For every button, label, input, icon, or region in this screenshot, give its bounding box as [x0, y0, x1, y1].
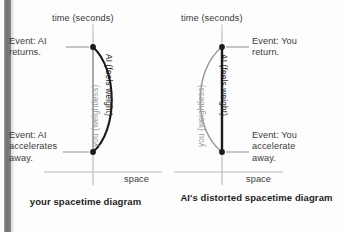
figure-canvas: time (seconds) space Event: AI returns. …	[0, 0, 342, 232]
right-worldline-label-ai: AI (feels weight)	[219, 54, 228, 116]
right-event-dot-top	[219, 44, 225, 50]
left-worldline-label-ai: AI (feels weight)	[104, 54, 113, 116]
left-event-label-bottom: Event: AI accelerates away.	[9, 130, 71, 164]
left-time-axis-label: time (seconds)	[52, 13, 114, 23]
left-worldline-label-you: you (weightless)	[91, 85, 100, 147]
left-space-axis-label: space	[124, 174, 149, 184]
left-panel-caption: your spacetime diagram	[0, 196, 171, 208]
right-time-axis-label: time (seconds)	[181, 13, 243, 23]
left-event-dot-top	[90, 44, 96, 50]
right-event-dot-bottom	[219, 149, 225, 155]
left-event-label-top: Event: AI returns.	[9, 36, 69, 59]
panel-your-spacetime-diagram: time (seconds) space Event: AI returns. …	[0, 0, 171, 232]
right-event-label-top: Event: You return.	[252, 36, 322, 59]
right-space-axis-label: space	[246, 174, 271, 184]
left-event-dot-bottom	[90, 149, 96, 155]
right-worldline-label-you: you (weightless)	[197, 85, 206, 147]
right-panel-caption: AI's distorted spacetime diagram	[171, 192, 342, 204]
panel-ai-distorted-spacetime-diagram: time (seconds) space Event: You return. …	[171, 0, 342, 232]
right-event-label-bottom: Event: You accelerate away.	[252, 130, 322, 164]
